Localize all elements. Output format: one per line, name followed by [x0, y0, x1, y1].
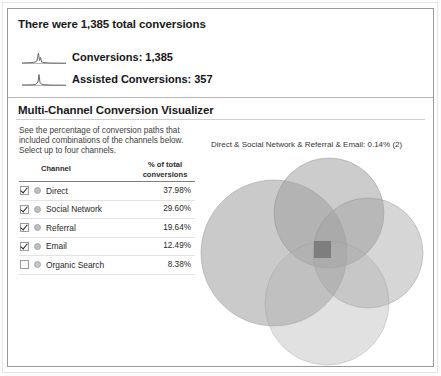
venn-diagram[interactable] — [196, 155, 428, 367]
table-row[interactable]: Social Network 29.60% — [19, 201, 195, 220]
channel-name: Referral — [46, 223, 76, 233]
channel-color-swatch — [34, 187, 41, 194]
description-line: See the percentage of conversion paths t… — [19, 126, 199, 136]
channel-checkbox-direct[interactable] — [20, 186, 29, 195]
channel-checkbox-referral[interactable] — [20, 223, 29, 232]
channel-name: Organic Search — [46, 260, 104, 270]
venn-annotation: Direct & Social Network & Referral & Ema… — [211, 140, 402, 149]
channel-color-swatch — [34, 224, 41, 231]
table-header-row: Channel % of total conversions — [19, 161, 195, 182]
sparkline-icon — [22, 49, 66, 66]
channel-color-swatch — [34, 261, 41, 268]
channel-percent: 29.60% — [163, 204, 191, 213]
channel-name: Social Network — [46, 204, 102, 214]
channel-checkbox-email[interactable] — [20, 242, 29, 251]
metric-label: Assisted Conversions: 357 — [72, 73, 213, 85]
column-header-channel: Channel — [41, 164, 71, 173]
channel-percent: 37.98% — [163, 186, 191, 195]
description-line: included combinations of the channels be… — [19, 136, 199, 146]
table-row[interactable]: Organic Search 8.38% — [19, 256, 195, 275]
channel-percent: 8.38% — [168, 260, 191, 269]
column-header-percent: % of total conversions — [137, 160, 193, 179]
channel-color-swatch — [34, 243, 41, 250]
visualizer-description: See the percentage of conversion paths t… — [19, 126, 199, 157]
channel-table: Channel % of total conversions Direct 37… — [19, 161, 195, 275]
table-row[interactable]: Direct 37.98% — [19, 182, 195, 201]
table-row[interactable]: Email 12.49% — [19, 238, 195, 257]
column-header-percent-line2: conversions — [137, 170, 193, 180]
channel-name: Email — [46, 241, 67, 251]
table-row[interactable]: Referral 19.64% — [19, 219, 195, 238]
metric-label: Conversions: 1,385 — [72, 51, 173, 63]
report-panel: There were 1,385 total conversions Conve… — [7, 8, 434, 367]
channel-color-swatch — [34, 206, 41, 213]
title-rule — [16, 119, 425, 120]
venn-circle-email — [265, 241, 389, 365]
channel-name: Direct — [46, 186, 68, 196]
venn-center-intersection — [314, 241, 331, 258]
conversions-summary-card: There were 1,385 total conversions Conve… — [8, 9, 433, 90]
screenshot-page: There were 1,385 total conversions Conve… — [0, 0, 441, 376]
sparkline-icon — [22, 71, 66, 88]
column-header-percent-line1: % of total — [137, 160, 193, 170]
channel-checkbox-organic-search[interactable] — [20, 260, 29, 269]
visualizer-title: Multi-Channel Conversion Visualizer — [18, 104, 214, 116]
summary-title: There were 1,385 total conversions — [18, 18, 206, 30]
section-divider — [8, 97, 433, 98]
channel-percent: 19.64% — [163, 223, 191, 232]
description-line: Select up to four channels. — [19, 146, 199, 156]
channel-checkbox-social-network[interactable] — [20, 205, 29, 214]
channel-percent: 12.49% — [163, 241, 191, 250]
